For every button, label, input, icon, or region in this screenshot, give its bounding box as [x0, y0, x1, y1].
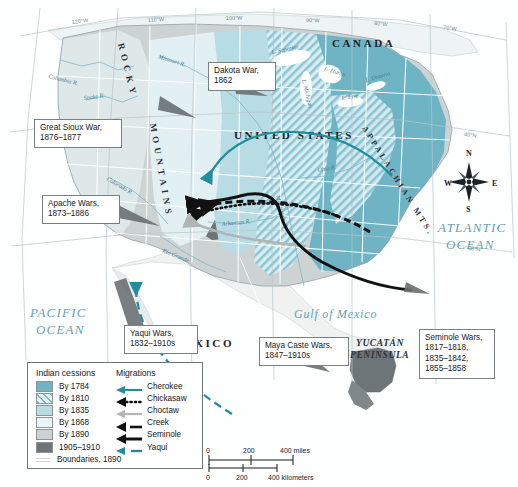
- boundary-line-icon: [36, 458, 51, 462]
- legend-cessions-column: By 1784 By 1810 By 1835 By 1868 By 1890: [36, 380, 116, 453]
- map-container: 120°W 110°W 100°W 90°W 80°W 70°W 40°N 30…: [0, 0, 518, 487]
- swatch-1890: [36, 429, 53, 440]
- legend-item-1905-1910[interactable]: 1905–1910: [36, 441, 116, 453]
- legend-label: Choctaw: [147, 406, 179, 415]
- map-legend: Indian cessions Migrations By 1784 By 18…: [27, 362, 203, 469]
- legend-item-by-1810[interactable]: By 1810: [36, 392, 116, 404]
- legend-label: By 1784: [59, 382, 89, 391]
- legend-label: By 1868: [59, 418, 89, 427]
- scale-km-0: 0: [206, 474, 210, 481]
- swatch-1810: [36, 393, 53, 404]
- legend-headings: Indian cessions Migrations: [28, 363, 202, 380]
- arrow-seminole-icon: [116, 430, 142, 440]
- legend-item-by-1784[interactable]: By 1784: [36, 380, 116, 392]
- arrow-creek-icon: [116, 418, 142, 428]
- legend-item-yaqui[interactable]: Yaqui: [116, 441, 187, 453]
- legend-item-by-1835[interactable]: By 1835: [36, 404, 116, 416]
- scale-mi-200: 200: [243, 447, 255, 454]
- legend-heading-migrations: Migrations: [116, 368, 156, 378]
- scale-km-200: 200: [236, 474, 248, 481]
- legend-label: Boundaries, 1890: [57, 455, 121, 464]
- scale-mi-0: 0: [206, 447, 210, 454]
- legend-label: Creek: [147, 418, 169, 427]
- legend-item-choctaw[interactable]: Choctaw: [116, 404, 187, 416]
- legend-item-cherokee[interactable]: Cherokee: [116, 380, 187, 392]
- swatch-1835: [36, 405, 53, 416]
- legend-label: Cherokee: [147, 382, 183, 391]
- scale-mi-400: 400 miles: [280, 447, 310, 454]
- legend-item-seminole[interactable]: Seminole: [116, 429, 187, 441]
- arrow-cherokee-icon: [116, 381, 142, 391]
- legend-item-creek[interactable]: Creek: [116, 417, 187, 429]
- legend-heading-cessions: Indian cessions: [36, 368, 116, 378]
- swatch-1905-1910: [36, 442, 53, 453]
- legend-label: By 1810: [59, 394, 89, 403]
- scale-km-400: 400 kilometers: [268, 474, 314, 481]
- legend-label: By 1835: [59, 406, 89, 415]
- legend-label: 1905–1910: [59, 443, 100, 452]
- legend-label: Yaqui: [147, 443, 167, 452]
- legend-item-chickasaw[interactable]: Chickasaw: [116, 392, 187, 404]
- swatch-1868: [36, 417, 53, 428]
- legend-migrations-column: Cherokee Chickasaw: [116, 380, 187, 453]
- legend-item-by-1868[interactable]: By 1868: [36, 417, 116, 429]
- legend-label: By 1890: [59, 430, 89, 439]
- arrow-choctaw-icon: [116, 405, 142, 415]
- legend-item-boundaries[interactable]: Boundaries, 1890: [28, 453, 202, 466]
- legend-label: Chickasaw: [147, 394, 187, 403]
- arrow-chickasaw-icon: [116, 393, 142, 403]
- legend-label: Seminole: [147, 430, 181, 439]
- legend-item-by-1890[interactable]: By 1890: [36, 429, 116, 441]
- swatch-1784: [36, 381, 53, 392]
- arrow-yaqui-icon: [116, 442, 142, 452]
